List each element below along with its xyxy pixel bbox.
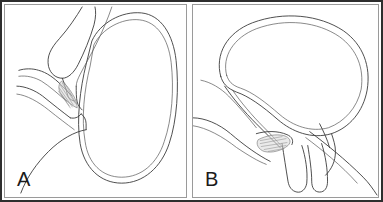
panel-a-label: A (17, 169, 31, 189)
uterus-body-inner-a (76, 7, 112, 86)
panel-b: B (192, 4, 379, 198)
panel-b-drawing (193, 5, 378, 197)
uterus-body-a (48, 7, 96, 78)
panel-a: A (4, 4, 187, 198)
bladder-outer-wall-b (219, 16, 368, 136)
panel-b-label: B (205, 169, 219, 189)
bladder-outer-wall-a (79, 13, 178, 183)
pelvic-floor-sling-inner-b (306, 138, 357, 184)
urethra-left-wall-b (282, 144, 307, 193)
panel-a-drawing (5, 5, 186, 197)
pelvic-floor-sling-b (310, 132, 377, 195)
anterior-organ-inner-b (193, 126, 266, 165)
urethra-right-wall-b (308, 144, 328, 192)
canal-bladder-junction-a (70, 114, 81, 118)
figure-container: A (0, 0, 383, 202)
